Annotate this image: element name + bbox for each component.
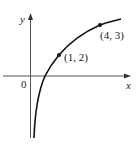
origin-label: 0	[21, 79, 27, 90]
point-4-3	[98, 23, 102, 27]
x-axis-label: x	[126, 80, 131, 91]
function-graph: y x 0 (1, 2) (4, 3)	[0, 0, 139, 145]
y-axis-label: y	[20, 14, 25, 25]
x-axis-arrow-icon	[124, 74, 131, 79]
point-1-2	[57, 53, 61, 57]
point-label-1-2: (1, 2)	[64, 52, 88, 63]
point-label-4-3: (4, 3)	[100, 30, 124, 41]
y-axis-arrow-icon	[28, 13, 33, 20]
